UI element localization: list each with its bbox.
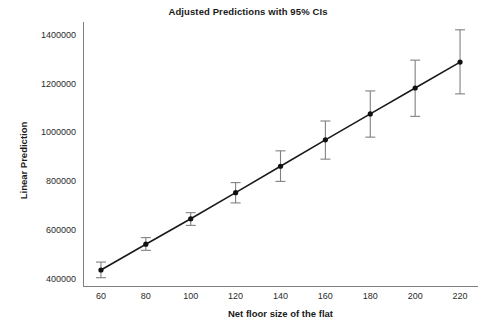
plot-area [83,22,478,287]
x-tick-label: 100 [183,291,198,301]
y-tick-label: 1000000 [41,127,76,137]
x-tick-label: 180 [363,291,378,301]
y-tick-label: 1200000 [41,79,76,89]
chart-figure: Adjusted Predictions with 95% CIs 400000… [0,0,496,331]
chart-svg [83,22,478,287]
y-axis-title: Linear Prediction [18,91,29,231]
data-point-marker [188,216,193,221]
data-point-marker [323,137,328,142]
data-point-marker [233,190,238,195]
x-tick-label: 120 [228,291,243,301]
x-tick-label: 160 [318,291,333,301]
data-point-marker [457,59,462,64]
data-point-marker [413,85,418,90]
y-tick-label: 800000 [46,176,76,186]
x-axis-title: Net floor size of the flat [83,308,478,319]
data-point-marker [368,111,373,116]
data-point-marker [98,267,103,272]
data-point-marker [278,164,283,169]
x-tick-label: 220 [453,291,468,301]
y-tick-label: 600000 [46,225,76,235]
x-tick-label: 200 [408,291,423,301]
x-tick-label: 80 [141,291,151,301]
x-tick-label: 60 [96,291,106,301]
y-tick-label: 1400000 [41,30,76,40]
data-point-marker [143,242,148,247]
x-tick-label: 140 [273,291,288,301]
y-tick-label: 400000 [46,274,76,284]
y-axis-tick-labels: 400000600000800000100000012000001400000 [0,0,76,331]
